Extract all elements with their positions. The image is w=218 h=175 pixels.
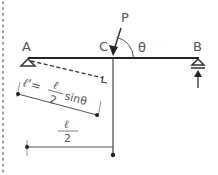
- point-label-b: B: [193, 39, 202, 54]
- svg-text:ℓ'=: ℓ'=: [21, 75, 42, 93]
- load-label-p: P: [121, 10, 129, 25]
- perpendicular-dashed-line: [31, 61, 103, 78]
- angle-label-theta: θ: [138, 40, 146, 55]
- svg-text:2: 2: [48, 93, 58, 107]
- pin-support-a-icon: [21, 59, 35, 66]
- point-label-c: C: [99, 39, 108, 54]
- half-span-denominator: 2: [64, 132, 71, 145]
- right-angle-marker-icon: [102, 76, 107, 83]
- svg-text:ℓ: ℓ: [52, 78, 60, 92]
- half-span-numerator: ℓ: [64, 118, 69, 131]
- angle-arc-icon: [117, 38, 134, 58]
- lever-arm-formula: ℓ'= ℓ 2 sinθ: [19, 71, 91, 115]
- load-arrow-p-icon: [109, 28, 121, 56]
- vertical-line-end-dot: [111, 153, 115, 157]
- point-label-a: A: [22, 39, 31, 54]
- svg-text:sinθ: sinθ: [63, 90, 88, 108]
- beam-diagram: A C B P θ ℓ'= ℓ 2 sinθ ℓ 2: [0, 0, 218, 175]
- reaction-arrow-b-icon: [194, 70, 202, 88]
- roller-support-b-icon: [191, 59, 205, 68]
